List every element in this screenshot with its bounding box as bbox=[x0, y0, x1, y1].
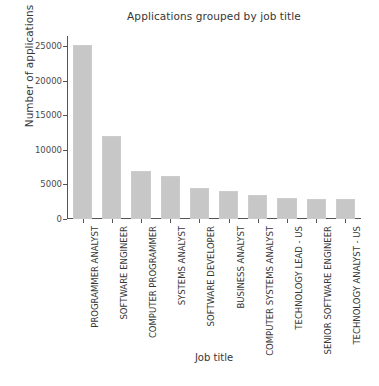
x-tick-mark bbox=[83, 219, 84, 223]
x-tick-mark bbox=[170, 219, 171, 223]
x-tick-mark bbox=[316, 219, 317, 223]
x-tick-mark bbox=[229, 219, 230, 223]
x-category-label: SENIOR SOFTWARE ENGINEER bbox=[321, 226, 335, 355]
y-tick-label-wrap: 15000 bbox=[0, 110, 62, 121]
x-category-label: SOFTWARE DEVELOPER bbox=[204, 226, 218, 326]
x-category-label: BUSINESS ANALYST bbox=[234, 226, 248, 309]
x-tick-mark bbox=[199, 219, 200, 223]
x-category-label: COMPUTER SYSTEMS ANALYST bbox=[263, 226, 277, 356]
y-tick-mark bbox=[63, 81, 67, 82]
chart-title: Applications grouped by job title bbox=[68, 10, 360, 22]
y-tick-label-wrap: 20000 bbox=[0, 76, 62, 87]
y-tick-label: 20000 bbox=[18, 76, 62, 86]
y-tick-label-wrap: 10000 bbox=[0, 145, 62, 156]
y-tick-mark bbox=[63, 184, 67, 185]
x-tick-mark bbox=[287, 219, 288, 223]
bar bbox=[307, 199, 326, 219]
y-tick-label-wrap: 0 bbox=[0, 214, 62, 225]
plot-area bbox=[68, 36, 360, 219]
y-tick-mark bbox=[63, 150, 67, 151]
y-tick-label: 15000 bbox=[18, 110, 62, 120]
bar bbox=[73, 45, 92, 219]
y-tick-mark bbox=[63, 46, 67, 47]
x-axis-label: Job title bbox=[68, 352, 360, 363]
x-category-label: TECHNOLOGY LEAD - US bbox=[292, 226, 306, 330]
y-tick-label-wrap: 25000 bbox=[0, 41, 62, 52]
y-tick-label-wrap: 5000 bbox=[0, 179, 62, 190]
y-tick-label: 0 bbox=[18, 214, 62, 224]
x-tick-mark bbox=[141, 219, 142, 223]
bar bbox=[102, 136, 121, 219]
x-category-label: SOFTWARE ENGINEER bbox=[117, 226, 131, 320]
y-tick-label: 5000 bbox=[18, 179, 62, 189]
y-tick-label: 25000 bbox=[18, 41, 62, 51]
x-category-label: PROGRAMMER ANALYST bbox=[88, 226, 102, 328]
bar bbox=[277, 198, 296, 219]
x-category-label: SYSTEMS ANALYST bbox=[175, 226, 189, 305]
x-tick-mark bbox=[112, 219, 113, 223]
x-tick-mark bbox=[345, 219, 346, 223]
x-category-label: TECHNOLOGY ANALYST - US bbox=[350, 226, 364, 345]
x-category-label: COMPUTER PROGRAMMER bbox=[146, 226, 160, 338]
y-tick-mark bbox=[63, 115, 67, 116]
bar bbox=[161, 176, 180, 219]
bar bbox=[248, 195, 267, 219]
bar bbox=[190, 188, 209, 219]
bar bbox=[336, 199, 355, 219]
y-tick-mark bbox=[63, 219, 67, 220]
bar bbox=[131, 171, 150, 219]
y-tick-label: 10000 bbox=[18, 145, 62, 155]
x-tick-mark bbox=[258, 219, 259, 223]
bar bbox=[219, 191, 238, 219]
bar-chart-figure: Applications grouped by job title Number… bbox=[0, 0, 379, 386]
